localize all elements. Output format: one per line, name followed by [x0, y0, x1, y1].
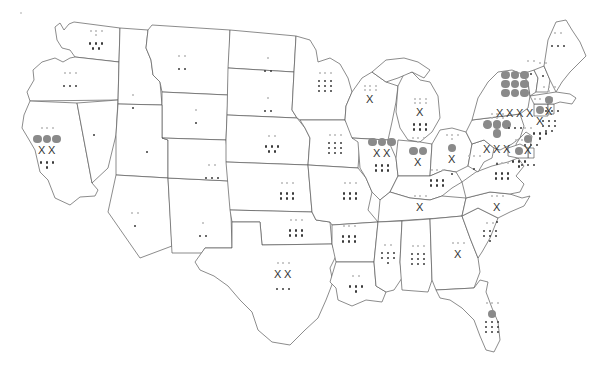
corner-speck-artifact: [20, 12, 22, 14]
state-outline-nm[interactable]: [168, 178, 232, 253]
state-outline-az[interactable]: [108, 175, 172, 258]
state-outline-me[interactable]: [544, 20, 586, 92]
state-outline-ms[interactable]: [374, 221, 402, 292]
us-marker-map: XXXXXXXXXXXXXXXXXXXXXXX: [0, 0, 607, 371]
state-outline-mi[interactable]: [396, 72, 440, 142]
state-outline-ri[interactable]: [548, 104, 554, 114]
state-outline-oh[interactable]: [430, 128, 472, 176]
state-outline-de[interactable]: [528, 148, 534, 158]
state-outline-ny[interactable]: [472, 70, 530, 120]
state-outline-ma[interactable]: [530, 92, 576, 104]
us-state-outlines: [0, 0, 607, 371]
state-outline-mi-up: [372, 58, 430, 82]
state-outline-nd[interactable]: [228, 30, 296, 72]
state-outline-ks[interactable]: [226, 162, 312, 212]
state-outline-ct[interactable]: [534, 104, 548, 116]
state-outline-co[interactable]: [162, 138, 230, 181]
state-outline-ar[interactable]: [332, 222, 378, 262]
state-outline-wi[interactable]: [345, 72, 398, 140]
state-outline-or[interactable]: [27, 57, 119, 101]
state-outline-fl[interactable]: [436, 280, 500, 352]
state-outline-in[interactable]: [396, 140, 432, 176]
state-outline-wa[interactable]: [55, 22, 120, 62]
state-outline-wy[interactable]: [162, 92, 228, 140]
state-outline-mn[interactable]: [292, 36, 352, 120]
state-outline-al[interactable]: [400, 219, 432, 292]
state-outline-ne[interactable]: [226, 115, 310, 165]
state-outline-ut[interactable]: [116, 104, 168, 178]
state-outline-sd[interactable]: [227, 68, 297, 118]
